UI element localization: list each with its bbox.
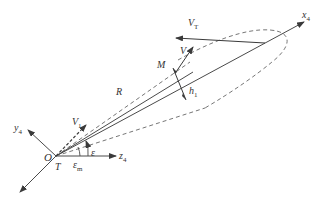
- y4-label: y4: [14, 123, 22, 136]
- M-label: M: [157, 60, 165, 70]
- VT-label: VT: [188, 18, 198, 31]
- R-label: R: [116, 87, 122, 97]
- origin-O-label: O: [44, 152, 52, 163]
- x4-label: x4: [302, 10, 310, 23]
- line-to-M: [56, 72, 193, 156]
- epsilon-arc: [86, 141, 88, 156]
- x4-axis: [56, 22, 304, 156]
- epsilon-label: ε: [91, 148, 95, 158]
- epsilon-m-label: εm: [73, 160, 82, 173]
- upper-dashed-line: [56, 62, 190, 156]
- origin-T-label: T: [55, 162, 61, 172]
- V-label: V: [180, 46, 186, 56]
- z4-label: z4: [119, 151, 126, 164]
- V1-label: V1: [72, 117, 82, 130]
- h1-label: h1: [189, 86, 198, 99]
- vector-diagram: [0, 0, 319, 205]
- VT-arrow: [176, 38, 265, 43]
